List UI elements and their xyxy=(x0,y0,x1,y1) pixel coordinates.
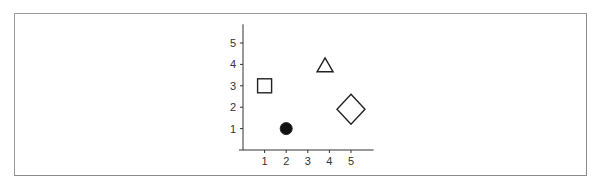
x-tick-label: 5 xyxy=(348,155,354,167)
y-tick-label: 1 xyxy=(230,123,236,135)
y-tick-label: 2 xyxy=(230,101,236,113)
square-marker xyxy=(258,79,272,93)
y-tick-label: 3 xyxy=(230,80,236,92)
x-tick-label: 4 xyxy=(326,155,332,167)
filled-circle-marker xyxy=(280,123,292,135)
y-tick-label: 4 xyxy=(230,58,236,70)
x-tick-label: 1 xyxy=(262,155,268,167)
diamond-marker xyxy=(337,94,365,124)
scatter-chart: 1234512345 xyxy=(0,0,602,189)
x-tick-label: 2 xyxy=(283,155,289,167)
x-tick-label: 3 xyxy=(305,155,311,167)
y-tick-label: 5 xyxy=(230,37,236,49)
triangle-marker xyxy=(317,58,333,72)
